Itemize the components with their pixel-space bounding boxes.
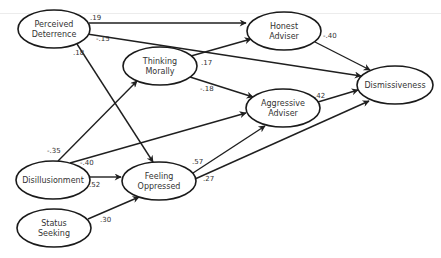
node-aggressive-adviser: Aggressive Adviser xyxy=(246,89,320,127)
coef-honest-dismissiveness: -.40 xyxy=(323,32,337,40)
coef-disillusionment-aggressive: -.40 xyxy=(80,159,94,167)
node-label: Dismissiveness xyxy=(364,81,425,90)
node-label-line2: Morally xyxy=(145,67,174,76)
node-label-line1: Feeling xyxy=(145,172,174,181)
coef-oppressed-dismissiveness: .27 xyxy=(203,175,214,183)
edge-oppressed-aggressive xyxy=(193,126,265,173)
coef-deterrence-dismissiveness: -.15 xyxy=(96,35,110,43)
node-status-seeking: Status Seeking xyxy=(17,209,91,247)
coef-oppressed-aggressive: .57 xyxy=(192,158,203,166)
edge-morally-honest xyxy=(191,39,251,56)
node-dismissiveness: Dismissiveness xyxy=(357,66,433,104)
path-diagram: .19 -.15 .18 .17 -.18 -.40 .42 -.35 -.40… xyxy=(0,0,441,258)
node-label-line1: Aggressive xyxy=(261,99,305,108)
node-label-line2: Oppressed xyxy=(138,182,181,191)
edge-honest-dismissiveness xyxy=(315,42,370,70)
node-honest-adviser: Honest Adviser xyxy=(247,12,321,50)
node-label-line2: Adviser xyxy=(268,109,298,118)
node-label-line1: Status xyxy=(41,219,67,228)
node-label-line1: Perceived xyxy=(35,20,74,29)
node-label-line1: Thinking xyxy=(142,57,177,66)
coef-deterrence-honest: .19 xyxy=(90,14,101,22)
node-disillusionment: Disillusionment xyxy=(16,161,90,199)
node-label-line1: Honest xyxy=(270,22,298,31)
node-thinking-morally: Thinking Morally xyxy=(123,47,197,85)
coef-morally-aggressive: -.18 xyxy=(200,85,214,93)
node-perceived-deterrence: Perceived Deterrence xyxy=(18,10,90,48)
edge-disillusionment-morally xyxy=(58,81,137,161)
node-label: Disillusionment xyxy=(22,176,84,185)
coef-deterrence-oppressed: .18 xyxy=(73,49,84,57)
node-feeling-oppressed: Feeling Oppressed xyxy=(122,162,196,200)
coef-disillusionment-oppressed: .52 xyxy=(89,181,100,189)
node-label-line2: Adviser xyxy=(269,32,299,41)
node-label-line2: Deterrence xyxy=(32,30,77,39)
coef-status-oppressed: .30 xyxy=(100,216,111,224)
edge-status-oppressed xyxy=(88,197,139,219)
coef-disillusionment-morally: -.35 xyxy=(47,147,61,155)
coef-morally-honest: .17 xyxy=(201,59,212,67)
node-label-line2: Seeking xyxy=(38,229,70,238)
